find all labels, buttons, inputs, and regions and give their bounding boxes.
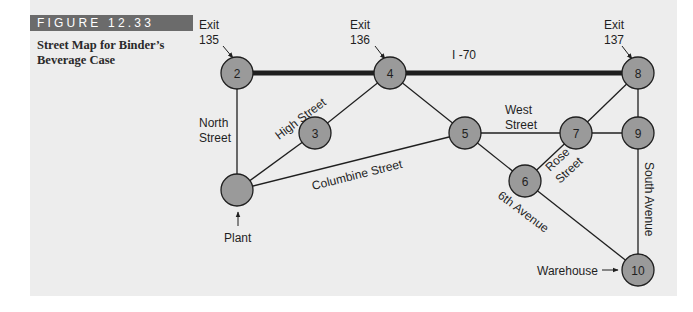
- exit-135-arrow-icon: [223, 46, 233, 58]
- node-6[interactable]: 6: [509, 165, 541, 197]
- exit-136-label: Exit: [350, 18, 371, 32]
- street-map: 2 3 4 5 6 7 8 9: [0, 0, 693, 312]
- exit-135-label: Exit: [199, 18, 220, 32]
- svg-text:2: 2: [234, 67, 241, 81]
- node-8[interactable]: 8: [622, 57, 654, 89]
- svg-text:5: 5: [462, 127, 469, 141]
- highway-label: I -70: [452, 48, 476, 62]
- node-7[interactable]: 7: [560, 117, 592, 149]
- svg-text:8: 8: [635, 67, 642, 81]
- exit-136-number: 136: [350, 33, 370, 47]
- svg-text:10: 10: [631, 264, 645, 278]
- exit-135-number: 135: [199, 33, 219, 47]
- west-street-label-2: Street: [505, 118, 538, 132]
- node-5[interactable]: 5: [449, 117, 481, 149]
- svg-text:4: 4: [387, 67, 394, 81]
- warehouse-label: Warehouse: [537, 264, 598, 278]
- svg-text:7: 7: [573, 127, 580, 141]
- plant-label: Plant: [224, 231, 252, 245]
- node-4[interactable]: 4: [374, 57, 406, 89]
- nodes: 2 3 4 5 6 7 8 9: [221, 57, 654, 286]
- node-9[interactable]: 9: [622, 117, 654, 149]
- edges: [237, 73, 638, 270]
- labels: Exit 135 Exit 136 Exit 137 I -70 North S…: [199, 18, 656, 278]
- south-avenue-label: South Avenue: [642, 162, 656, 237]
- node-10-warehouse[interactable]: 10: [622, 254, 654, 286]
- columbine-street-label: Columbine Street: [310, 157, 404, 193]
- svg-text:9: 9: [635, 127, 642, 141]
- svg-text:3: 3: [312, 127, 319, 141]
- north-street-label: North: [199, 116, 228, 130]
- node-1-plant[interactable]: [221, 174, 253, 206]
- exit-137-arrow-icon: [622, 46, 632, 59]
- node-2[interactable]: 2: [221, 57, 253, 89]
- exit-136-arrow-icon: [375, 46, 385, 59]
- west-street-label: West: [505, 103, 533, 117]
- exit-137-label: Exit: [604, 18, 625, 32]
- north-street-label-2: Street: [199, 131, 232, 145]
- svg-text:6: 6: [522, 175, 529, 189]
- exit-137-number: 137: [604, 33, 624, 47]
